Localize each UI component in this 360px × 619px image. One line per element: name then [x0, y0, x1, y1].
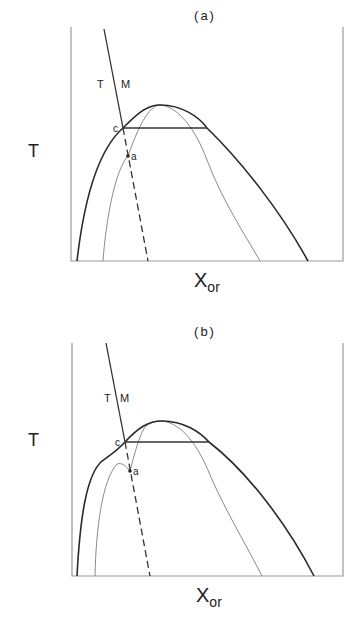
point-a-marker	[126, 154, 130, 158]
tm-label-t: T	[97, 78, 104, 90]
point-a-label: a	[131, 151, 137, 162]
figure-canvas: ca(a)TTMXorca(b)TTMXor	[0, 0, 360, 619]
point-c-label: c	[113, 123, 118, 134]
axes-frame	[71, 27, 343, 261]
tm-transition-line-dashed	[125, 442, 150, 576]
panel-title: (a)	[194, 8, 216, 23]
x-axis-label: Xor	[194, 269, 220, 295]
panel-a: ca(a)TTMXor	[28, 8, 343, 295]
y-axis-label: T	[28, 430, 39, 450]
bold-coexistence-curve	[77, 421, 314, 576]
x-axis-label: Xor	[196, 584, 222, 610]
panel-b: ca(b)TTMXor	[28, 324, 343, 610]
point-a-marker	[128, 469, 132, 473]
point-c-label: c	[115, 437, 120, 448]
tm-transition-line-dashed	[123, 128, 148, 261]
panel-title: (b)	[194, 324, 216, 339]
tm-label-m: M	[120, 392, 129, 404]
phase-diagram-figure: ca(a)TTMXorca(b)TTMXor	[0, 0, 360, 619]
thin-binodal-curve	[95, 421, 262, 576]
point-a-label: a	[133, 466, 139, 477]
y-axis-label: T	[28, 141, 39, 161]
tm-label-t: T	[104, 392, 111, 404]
tm-label-m: M	[121, 78, 130, 90]
